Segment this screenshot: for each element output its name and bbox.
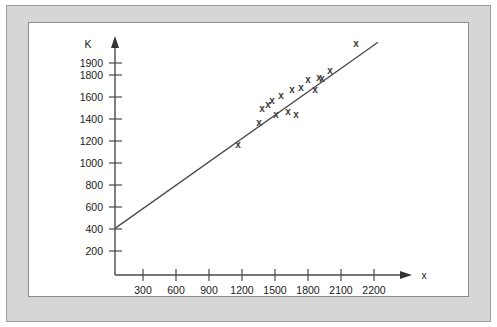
x-axis-arrow: [400, 271, 412, 279]
y-tick-label: 1400: [80, 113, 104, 125]
scatter-plot: 1900 1800 1600 1400 1200 1000 800 600 40…: [0, 0, 497, 327]
y-tick-label: 400: [85, 223, 103, 235]
data-point: x: [269, 95, 275, 106]
trend-line: [115, 42, 378, 228]
y-axis-label: K: [84, 38, 91, 50]
x-axis-tick-labels: 300 600 900 1200 1500 1800 2100 2200: [134, 284, 386, 296]
x-tick-label: 600: [167, 284, 185, 296]
data-point: x: [298, 82, 304, 93]
data-point: x: [312, 84, 318, 95]
y-tick-label: 1000: [80, 157, 104, 169]
y-tick-label: 200: [85, 245, 103, 257]
data-point: x: [293, 109, 299, 120]
y-tick-label: 1600: [80, 91, 104, 103]
x-axis: [115, 271, 412, 279]
x-tick-label: 2200: [362, 284, 386, 296]
y-tick-label: 1200: [80, 135, 104, 147]
data-point: x: [319, 73, 325, 84]
y-tick-label: 800: [85, 179, 103, 191]
x-tick-label: 1200: [230, 284, 254, 296]
data-point: x: [327, 65, 333, 76]
x-tick-label: 1500: [263, 284, 287, 296]
y-axis-arrow: [111, 36, 119, 48]
x-axis-label: x: [421, 269, 427, 281]
scatter-points: x x x x x x x x x x x x x x x x x: [235, 38, 359, 150]
data-point: x: [289, 84, 295, 95]
data-point: x: [353, 38, 359, 49]
data-point: x: [305, 74, 311, 85]
data-point: x: [256, 117, 262, 128]
x-tick-label: 2100: [329, 284, 353, 296]
data-point: x: [235, 139, 241, 150]
y-tick-label: 600: [85, 201, 103, 213]
figure-root: 1900 1800 1600 1400 1200 1000 800 600 40…: [0, 0, 497, 327]
x-tick-label: 300: [134, 284, 152, 296]
y-axis-tick-labels: 1900 1800 1600 1400 1200 1000 800 600 40…: [80, 57, 104, 257]
x-tick-label: 900: [200, 284, 218, 296]
y-tick-label: 1800: [80, 69, 104, 81]
data-point: x: [273, 109, 279, 120]
y-axis: [111, 36, 119, 275]
data-point: x: [278, 90, 284, 101]
data-point: x: [285, 106, 291, 117]
x-tick-label: 1800: [296, 284, 320, 296]
y-tick-label: 1900: [80, 57, 104, 69]
